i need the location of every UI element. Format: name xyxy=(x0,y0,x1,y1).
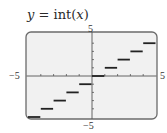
x-min-label: −5 xyxy=(9,71,20,81)
x-max-label: 5 xyxy=(160,71,165,81)
y-min-label: −5 xyxy=(83,121,94,131)
y-max-label: 5 xyxy=(88,24,93,34)
plot-area xyxy=(0,0,167,133)
plot-frame xyxy=(26,32,157,119)
